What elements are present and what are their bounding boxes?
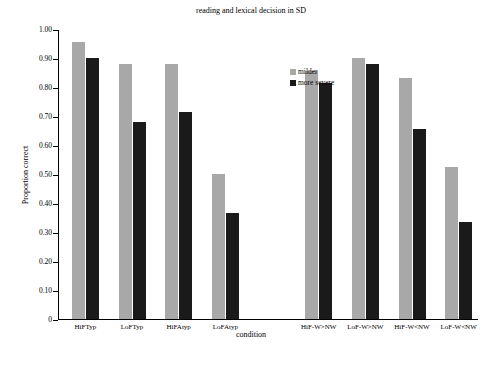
y-axis-tick-label: 0.50 [16, 171, 52, 179]
bar [133, 122, 146, 319]
bar [226, 213, 239, 319]
x-axis-line [58, 319, 478, 320]
y-axis-tick [53, 291, 58, 292]
legend-item-more-severe: more severe [290, 79, 334, 87]
y-axis-line [58, 30, 59, 320]
y-axis-tick [53, 262, 58, 263]
y-axis-tick-label: 1.00 [16, 26, 52, 34]
y-axis-tick-label: 0.60 [16, 142, 52, 150]
y-axis-tick-label: 0.10 [16, 287, 52, 295]
chart-container: reading and lexical decision in SD Propo… [0, 0, 502, 366]
y-axis-tick [53, 204, 58, 205]
y-axis-tick-label: 0.40 [16, 200, 52, 208]
bar [212, 174, 225, 319]
bar [413, 129, 426, 319]
chart-legend: milder more severe [290, 68, 334, 90]
bar [366, 64, 379, 319]
y-axis-tick [53, 233, 58, 234]
bar [179, 112, 192, 319]
plot-area: Proportion correct 00.100.200.300.400.50… [58, 30, 478, 320]
bar [319, 83, 332, 319]
legend-swatch-icon [290, 69, 296, 75]
bar [459, 222, 472, 319]
bar [72, 42, 85, 319]
x-axis-label: condition [0, 330, 502, 339]
legend-item-milder: milder [290, 68, 334, 76]
y-axis-tick-label: 0.30 [16, 229, 52, 237]
legend-swatch-icon [290, 80, 296, 86]
bar [86, 58, 99, 319]
y-axis-tick-label: 0.90 [16, 55, 52, 63]
y-axis-tick [53, 146, 58, 147]
bar [305, 71, 318, 319]
y-axis-tick-label: 0.80 [16, 84, 52, 92]
y-axis-tick-label: 0.20 [16, 258, 52, 266]
bar [352, 58, 365, 319]
bar [119, 64, 132, 319]
y-axis-tick-label: 0.70 [16, 113, 52, 121]
y-axis-tick [53, 59, 58, 60]
y-axis-tick [53, 30, 58, 31]
y-axis-tick [53, 175, 58, 176]
bar [445, 167, 458, 319]
y-axis-tick [53, 117, 58, 118]
bar [165, 64, 178, 319]
chart-title: reading and lexical decision in SD [0, 6, 502, 15]
y-axis-tick [53, 320, 58, 321]
bar [399, 78, 412, 319]
legend-label: milder [298, 68, 318, 76]
legend-label: more severe [298, 79, 334, 87]
y-axis-tick [53, 88, 58, 89]
